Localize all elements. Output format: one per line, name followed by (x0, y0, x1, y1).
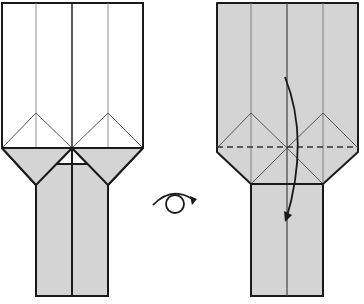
step-after-figure (217, 3, 358, 296)
step-before-figure (2, 3, 143, 296)
leg-left (36, 164, 72, 296)
turn-over-icon (153, 194, 197, 213)
leg-right (72, 164, 108, 296)
origami-diagram (0, 0, 364, 304)
